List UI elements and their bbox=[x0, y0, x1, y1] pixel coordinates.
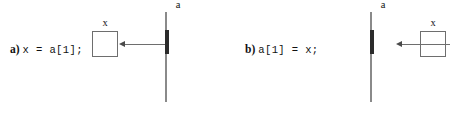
panel-a-variable-label: x bbox=[92, 18, 118, 29]
panel-a-arrow-head-icon bbox=[119, 41, 125, 47]
panel-a-caption: a)x = a[1]; bbox=[10, 44, 83, 56]
panel-b-caption: b)a[1] = x; bbox=[245, 44, 319, 56]
panel-b-array-cell-0 bbox=[370, 12, 372, 31]
panel-b-array-cell-2 bbox=[370, 53, 372, 78]
panel-b-arrow-head-icon bbox=[396, 41, 402, 47]
panel-a-marker: a) bbox=[10, 43, 20, 55]
panel-b-marker: b) bbox=[245, 43, 255, 55]
panel-a-arrow-line bbox=[124, 44, 166, 45]
panel-a-code: x = a[1]; bbox=[20, 44, 83, 56]
panel-a-array-label: a bbox=[165, 0, 191, 11]
panel-b-arrow-line bbox=[401, 44, 450, 45]
panel-b-variable-label: x bbox=[420, 18, 446, 29]
panel-a-array-cell-2 bbox=[165, 53, 167, 78]
panel-a-array-cell-1 bbox=[165, 30, 169, 54]
panel-b-code: a[1] = x; bbox=[255, 44, 318, 56]
panel-a-array-cell-0 bbox=[165, 12, 167, 31]
panel-a-array-cell-3 bbox=[165, 77, 167, 102]
panel-b-array-label: a bbox=[370, 0, 396, 11]
panel-b-array-cell-3 bbox=[370, 77, 372, 102]
panel-b-array-column bbox=[370, 12, 396, 102]
array-assignment-figure: a)x = a[1]; x a b)a[1] = x; a bbox=[0, 0, 455, 114]
panel-a-array-column bbox=[165, 12, 191, 102]
panel-b-array-cell-1 bbox=[370, 30, 374, 54]
panel-a-variable-box bbox=[92, 31, 118, 57]
